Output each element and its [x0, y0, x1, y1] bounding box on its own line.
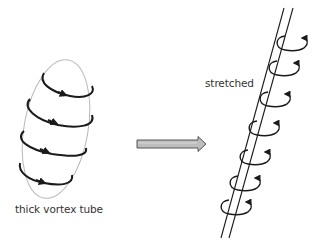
rotation-ring-1: [277, 36, 307, 51]
rotation-ring-4: [249, 121, 279, 136]
vortex-ring-1: [42, 73, 92, 97]
stretched-vortex-tube: [221, 8, 307, 238]
thick-vortex-tube-label: thick vortex tube: [15, 203, 103, 215]
tube-outline: [12, 55, 99, 204]
rotation-ring-3: [260, 92, 290, 107]
vortex-ring-3: [21, 131, 86, 156]
stretching-arrow-icon: [137, 137, 206, 152]
tube-line-right: [229, 8, 293, 238]
thick-vortex-tube: [12, 55, 99, 204]
stretched-label: stretched: [205, 77, 254, 89]
vortex-ring-2: [28, 99, 93, 127]
rotation-ring-2: [269, 61, 299, 76]
